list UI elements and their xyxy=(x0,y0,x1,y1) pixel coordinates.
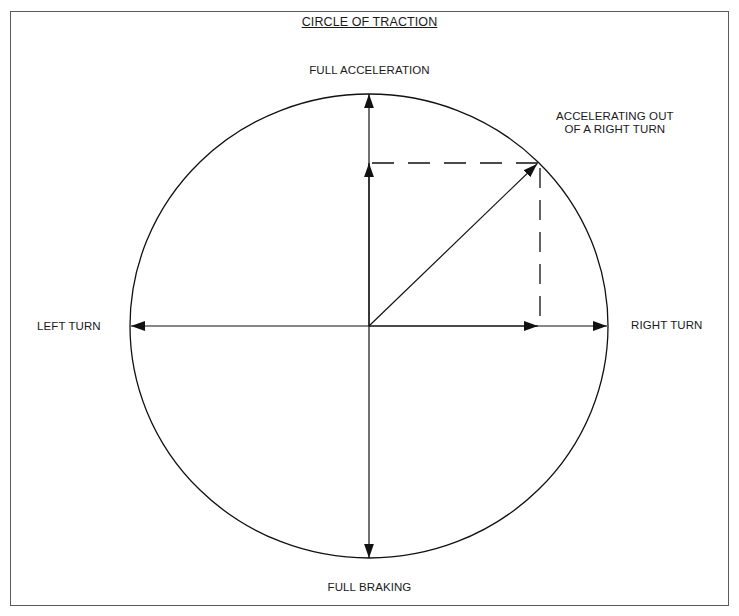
traction-circle-diagram xyxy=(0,0,739,616)
arrow-combined-force xyxy=(369,164,537,326)
